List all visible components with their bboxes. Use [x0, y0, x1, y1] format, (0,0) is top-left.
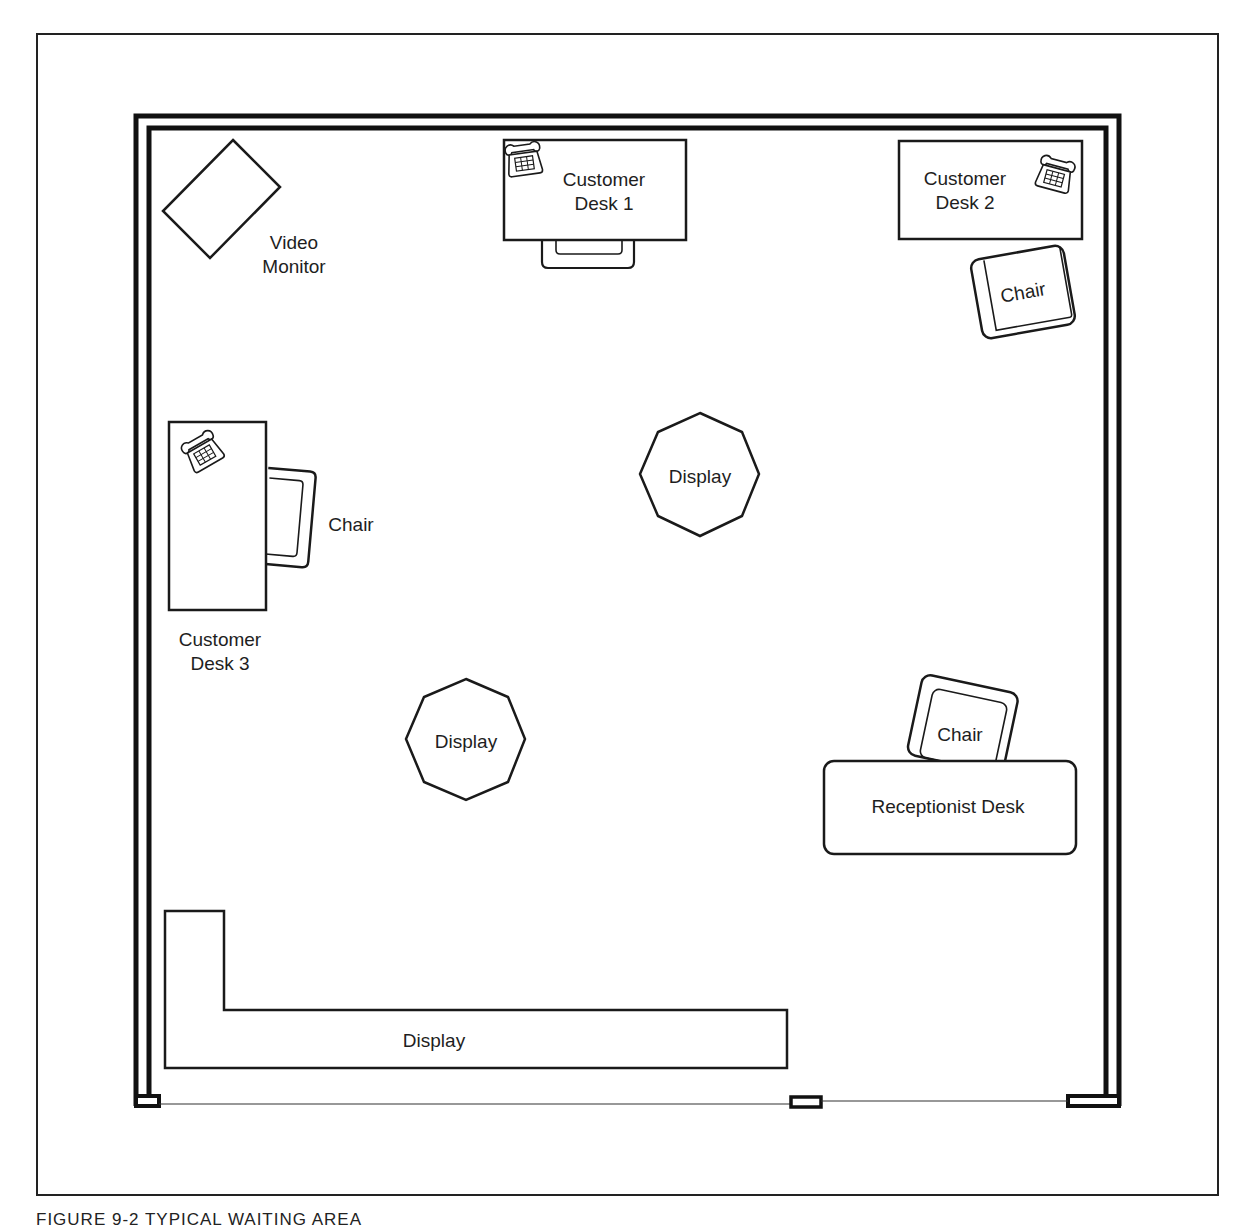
- display-label: Display: [435, 731, 498, 752]
- customer-desk-2-label-2: Desk 2: [935, 192, 994, 213]
- customer-desk-2-label: Customer: [924, 168, 1007, 189]
- chair-label: Chair: [328, 514, 374, 535]
- floor-plan: Video Monitor Customer Desk 1 Customer D…: [0, 0, 1253, 1225]
- customer-desk-1-label-2: Desk 1: [574, 193, 633, 214]
- door-jamb: [791, 1097, 821, 1107]
- display-octagon-1: Display: [640, 413, 759, 536]
- display-label: Display: [669, 466, 732, 487]
- video-monitor-label: Video: [270, 232, 318, 253]
- chair-desk-3: [260, 468, 316, 568]
- video-monitor-label-2: Monitor: [262, 256, 326, 277]
- phone-icon: [504, 141, 543, 177]
- customer-desk-3: Chair Customer Desk 3: [169, 422, 374, 674]
- customer-desk-1: Customer Desk 1: [504, 140, 686, 268]
- customer-desk-1-label: Customer: [563, 169, 646, 190]
- customer-desk-3-label: Customer: [179, 629, 262, 650]
- video-monitor: Video Monitor: [163, 140, 326, 277]
- display-label: Display: [403, 1030, 466, 1051]
- chair-desk-2: Chair: [970, 244, 1076, 339]
- display-l-shaped: Display: [165, 911, 787, 1068]
- receptionist-area: Chair Receptionist Desk: [824, 674, 1076, 854]
- figure-caption: FIGURE 9-2 TYPICAL WAITING AREA: [36, 1210, 362, 1225]
- customer-desk-2: Customer Desk 2: [899, 141, 1082, 239]
- customer-desk-3-label-2: Desk 3: [190, 653, 249, 674]
- receptionist-desk-label: Receptionist Desk: [871, 796, 1025, 817]
- display-octagon-2: Display: [406, 679, 525, 800]
- chair-label: Chair: [937, 724, 983, 745]
